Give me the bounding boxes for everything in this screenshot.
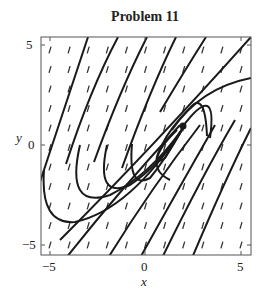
direction-field <box>49 47 242 249</box>
phase-plot <box>0 0 264 300</box>
